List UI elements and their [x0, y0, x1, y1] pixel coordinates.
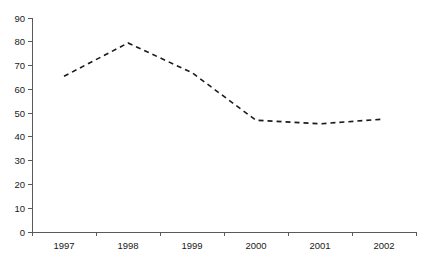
- y-axis-tick-label: 50: [14, 108, 25, 119]
- x-axis-tick-label: 1998: [117, 240, 138, 251]
- y-axis-tick-label: 40: [14, 131, 25, 142]
- y-axis-tick-label: 30: [14, 155, 25, 166]
- y-axis-tick-label: 20: [14, 179, 25, 190]
- chart-container: 0102030405060708090 19971998199920002001…: [0, 0, 427, 264]
- x-axis-tick-label: 2001: [309, 240, 330, 251]
- chart-background: [0, 0, 427, 264]
- y-axis-tick-label: 0: [20, 227, 25, 238]
- x-axis-tick-label: 1999: [181, 240, 202, 251]
- y-axis-tick-label: 90: [14, 13, 25, 24]
- x-axis-tick-label: 1997: [53, 240, 74, 251]
- y-axis-tick-label: 10: [14, 203, 25, 214]
- x-axis-tick-label: 2000: [245, 240, 266, 251]
- y-axis-tick-label: 70: [14, 60, 25, 71]
- y-axis-tick-label: 60: [14, 84, 25, 95]
- y-axis-tick-label: 80: [14, 36, 25, 47]
- line-chart: 0102030405060708090 19971998199920002001…: [0, 0, 427, 264]
- x-axis-tick-label: 2002: [373, 240, 394, 251]
